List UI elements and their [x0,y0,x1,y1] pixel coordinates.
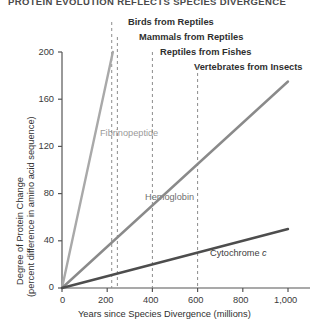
plot-canvas [0,0,332,322]
chart-figure: PROTEIN EVOLUTION REFLECTS SPECIES DIVER… [0,0,332,322]
